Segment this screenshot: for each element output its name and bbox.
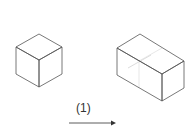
cube-shape	[16, 34, 62, 87]
step-label: (1)	[76, 101, 91, 115]
right-arrow-icon	[69, 121, 116, 126]
double-cube-prism-shape	[117, 34, 184, 101]
diagram-canvas	[0, 0, 195, 129]
